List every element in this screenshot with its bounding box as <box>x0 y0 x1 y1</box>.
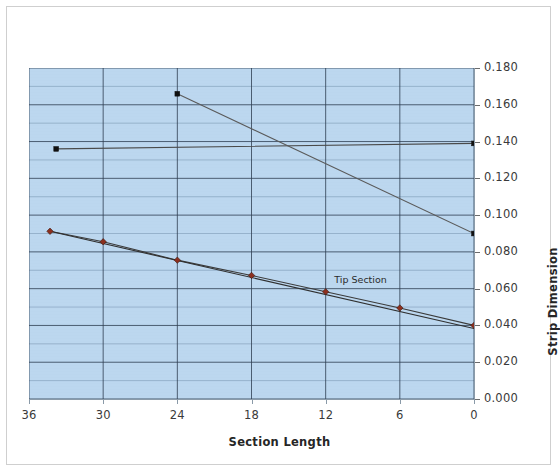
y-tick-label: 0.080 <box>484 244 518 258</box>
x-tick-label: 6 <box>380 408 420 422</box>
x-tick-label: 30 <box>83 408 123 422</box>
chart-canvas <box>29 68 474 399</box>
series-line <box>56 143 474 149</box>
y-tick-label: 0.060 <box>484 281 518 295</box>
y-tick-label: 0.040 <box>484 317 518 331</box>
y-tick-label: 0.120 <box>484 170 518 184</box>
x-tick-label: 36 <box>9 408 49 422</box>
x-tick-label: 12 <box>306 408 346 422</box>
data-point-marker <box>54 147 59 152</box>
series-markers <box>47 91 474 328</box>
x-tick-label: 18 <box>232 408 272 422</box>
chart-plot-wrapper: 0.0000.0200.0400.0600.0800.1000.1200.140… <box>7 7 552 466</box>
annotation-tip-section: Tip Section <box>334 274 387 285</box>
y-tick-label: 0.160 <box>484 97 518 111</box>
y-tick-label: 0.140 <box>484 134 518 148</box>
x-tick-label: 0 <box>454 408 494 422</box>
series-line <box>50 231 474 328</box>
data-point-marker <box>174 257 180 263</box>
y-tick-label: 0.100 <box>484 207 518 221</box>
x-axis-spine <box>29 399 474 400</box>
data-point-marker <box>397 305 403 311</box>
x-tick-label: 24 <box>157 408 197 422</box>
y-axis-title: Strip Dimension <box>546 247 560 355</box>
y-tick-label: 0.180 <box>484 60 518 74</box>
y-tick-label: 0.000 <box>484 391 518 405</box>
y-tick-label: 0.020 <box>484 354 518 368</box>
chart-frame: 0.0000.0200.0400.0600.0800.1000.1200.140… <box>6 6 551 465</box>
y-axis-spine <box>474 68 475 399</box>
x-axis-title: Section Length <box>7 435 552 449</box>
x-tick-mark <box>474 399 475 404</box>
data-point-marker <box>175 91 180 96</box>
series-lines <box>50 94 474 329</box>
